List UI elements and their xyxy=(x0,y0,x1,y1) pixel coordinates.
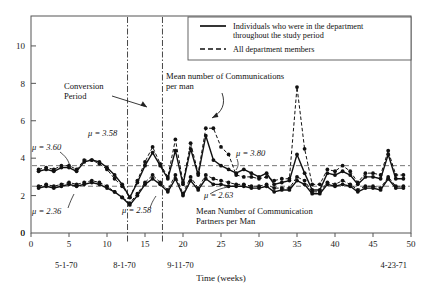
data-point-communications-all-members xyxy=(257,177,261,181)
data-point-communications-core-members xyxy=(371,175,375,179)
data-point-communications-core-members xyxy=(250,171,254,175)
data-point-communications-all-members xyxy=(181,181,185,185)
data-point-communications-all-members xyxy=(303,147,307,151)
data-point-communications-all-members xyxy=(189,141,193,145)
y-origin-label: 0 xyxy=(21,228,26,238)
data-point-partners-all-members xyxy=(348,182,352,186)
mean-label-mu-2-58: μ = 2.58 xyxy=(121,205,152,215)
x-tick-label-10: 10 xyxy=(103,239,113,249)
annotation-partners-line-2: Partners per Man xyxy=(196,216,256,226)
data-point-partners-all-members xyxy=(174,173,178,177)
data-point-communications-core-members xyxy=(341,169,345,173)
legend-label-0-line-1: Individuals who were in the department xyxy=(233,22,364,31)
data-point-partners-all-members xyxy=(288,186,292,190)
data-point-communications-core-members xyxy=(333,173,337,177)
data-point-communications-all-members xyxy=(136,179,140,183)
data-point-partners-all-members xyxy=(272,186,276,190)
data-point-communications-core-members xyxy=(379,177,383,181)
data-point-partners-core-members xyxy=(151,177,155,181)
y-tick-label-6: 6 xyxy=(21,116,26,126)
data-point-communications-all-members xyxy=(348,169,352,173)
data-point-partners-all-members xyxy=(280,186,284,190)
data-point-communications-all-members xyxy=(318,182,322,186)
data-point-communications-core-members xyxy=(219,164,223,168)
data-point-partners-core-members xyxy=(204,177,208,181)
communications-arrow-shaft xyxy=(212,93,224,118)
data-point-communications-all-members xyxy=(234,173,238,177)
data-point-communications-all-members xyxy=(272,179,276,183)
mu-3-80-pointer xyxy=(236,159,238,170)
data-point-partners-core-members xyxy=(227,184,231,188)
data-point-partners-all-members xyxy=(402,184,406,188)
data-point-partners-all-members xyxy=(120,196,124,200)
data-point-partners-all-members xyxy=(143,181,147,185)
x-tick-label-45: 45 xyxy=(369,239,379,249)
data-point-communications-core-members xyxy=(326,171,330,175)
data-point-partners-all-members xyxy=(318,190,322,194)
legend-label-1: All department members xyxy=(233,45,314,54)
data-point-partners-all-members xyxy=(52,184,56,188)
annotation-communications-line-2: per man xyxy=(166,81,195,91)
data-point-partners-all-members xyxy=(310,190,314,194)
data-point-partners-core-members xyxy=(212,182,216,186)
data-point-partners-all-members xyxy=(265,182,269,186)
data-point-communications-all-members xyxy=(379,173,383,177)
data-point-partners-core-members xyxy=(303,182,307,186)
data-point-communications-all-members xyxy=(82,158,86,162)
data-point-communications-all-members xyxy=(310,182,314,186)
y-tick-label-8: 8 xyxy=(21,79,26,89)
data-point-partners-core-members xyxy=(272,190,276,194)
data-point-partners-all-members xyxy=(151,173,155,177)
data-point-communications-all-members xyxy=(37,167,41,171)
data-point-communications-all-members xyxy=(295,85,299,89)
date-label-date-conversion-end: 9-11-70 xyxy=(167,261,193,270)
date-label-date-conversion-start: 8-1-70 xyxy=(113,261,135,270)
data-point-communications-all-members xyxy=(250,175,254,179)
y-tick-label-10: 10 xyxy=(16,41,26,51)
data-point-partners-all-members xyxy=(44,182,48,186)
data-point-partners-all-members xyxy=(204,173,208,177)
data-point-communications-all-members xyxy=(113,177,117,181)
data-point-partners-all-members xyxy=(234,182,238,186)
data-point-communications-all-members xyxy=(120,184,124,188)
data-point-communications-all-members xyxy=(158,162,162,166)
data-point-communications-core-members xyxy=(212,158,216,162)
data-point-partners-all-members xyxy=(196,186,200,190)
data-point-communications-core-members xyxy=(242,167,246,171)
data-point-partners-all-members xyxy=(158,181,162,185)
data-point-communications-core-members xyxy=(303,171,307,175)
data-point-communications-all-members xyxy=(75,167,79,171)
mu-2-58-pointer xyxy=(150,196,156,208)
data-point-communications-all-members xyxy=(394,173,398,177)
x-tick-label-20: 20 xyxy=(179,239,189,249)
data-point-communications-all-members xyxy=(44,166,48,170)
data-point-partners-core-members xyxy=(341,182,345,186)
communications-arrow-head xyxy=(212,112,218,118)
data-point-communications-all-members xyxy=(212,126,216,130)
data-point-partners-all-members xyxy=(303,179,307,183)
data-point-communications-all-members xyxy=(166,175,170,179)
x-tick-label-25: 25 xyxy=(217,239,227,249)
data-point-communications-all-members xyxy=(386,149,390,153)
data-point-communications-all-members xyxy=(326,167,330,171)
data-point-partners-all-members xyxy=(326,181,330,185)
x-tick-label-50: 50 xyxy=(407,239,417,249)
annotation-communications-line-1: Mean number of Communications xyxy=(166,71,285,81)
annotation-conversion-line-1: Conversion xyxy=(64,81,104,91)
x-tick-label-15: 15 xyxy=(141,239,151,249)
data-point-partners-all-members xyxy=(227,181,231,185)
data-point-communications-all-members xyxy=(90,158,94,162)
data-point-communications-all-members xyxy=(174,138,178,142)
mu-2-36-pointer xyxy=(68,194,74,208)
data-point-communications-all-members xyxy=(52,167,56,171)
data-point-communications-all-members xyxy=(288,177,292,181)
data-point-partners-all-members xyxy=(82,181,86,185)
mean-label-mu-3-80: μ = 3.80 xyxy=(235,148,266,158)
data-point-partners-all-members xyxy=(98,181,102,185)
data-point-communications-all-members xyxy=(371,171,375,175)
data-point-partners-all-members xyxy=(181,192,185,196)
annotation-conversion-line-2: Period xyxy=(64,91,87,101)
data-point-communications-all-members xyxy=(333,169,337,173)
data-point-partners-all-members xyxy=(37,184,41,188)
data-point-partners-all-members xyxy=(105,184,109,188)
